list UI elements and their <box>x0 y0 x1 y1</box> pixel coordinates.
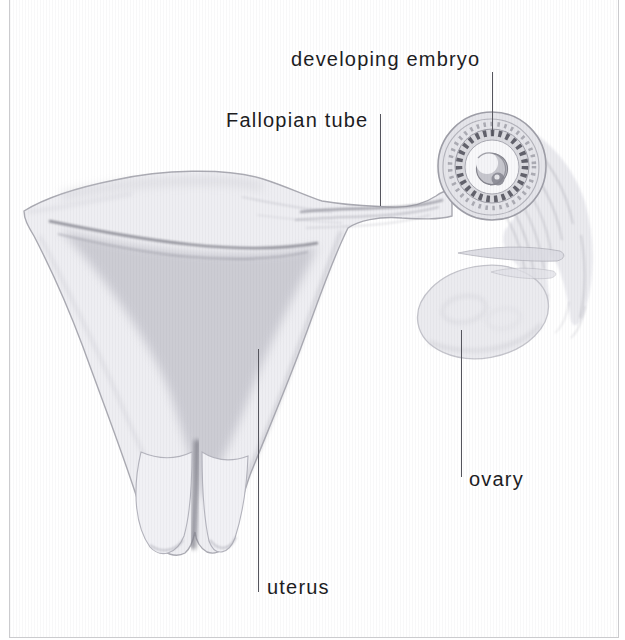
pointer-line-ovary <box>461 330 462 477</box>
pointer-line-uterus <box>258 349 259 592</box>
pointer-line-developing-embryo <box>492 72 493 136</box>
label-ovary: ovary <box>469 468 524 491</box>
anatomy-illustration <box>0 0 625 640</box>
label-uterus: uterus <box>267 576 330 599</box>
label-developing-embryo: developing embryo <box>291 48 480 71</box>
uterus-illustration <box>24 171 452 555</box>
pointer-line-fallopian-tube <box>380 114 381 206</box>
illustration-canvas: { "labels": { "developing_embryo": "deve… <box>0 0 625 640</box>
label-fallopian-tube: Fallopian tube <box>226 109 368 132</box>
